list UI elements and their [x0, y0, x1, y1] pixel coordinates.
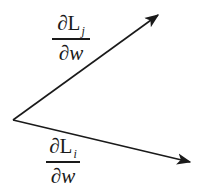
partial-symbol: ∂ [51, 164, 61, 188]
numerator: ∂Lj [57, 12, 85, 37]
gradient-vector-i [13, 120, 190, 162]
partial-L-symbol: ∂L [57, 11, 80, 35]
denominator: ∂w [51, 165, 75, 187]
partial-symbol: ∂ [59, 41, 69, 65]
partial-L-symbol: ∂L [49, 134, 72, 158]
subscript-j: j [81, 24, 84, 38]
vector-canvas [0, 0, 202, 189]
label-dLj-dw: ∂Lj ∂w [52, 12, 90, 64]
fraction-bar [52, 38, 90, 40]
variable-w: w [69, 41, 83, 65]
fraction-bar [46, 161, 80, 163]
denominator: ∂w [59, 42, 83, 64]
variable-w: w [61, 164, 75, 188]
numerator: ∂Li [49, 135, 77, 160]
label-dLi-dw: ∂Li ∂w [46, 135, 80, 187]
subscript-i: i [73, 147, 76, 161]
